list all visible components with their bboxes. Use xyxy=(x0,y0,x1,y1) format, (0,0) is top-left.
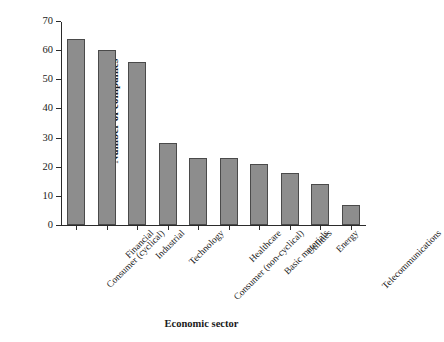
x-tick-label: Telecommunications xyxy=(380,228,444,292)
x-tick xyxy=(290,226,291,230)
y-tick-label: 40 xyxy=(43,101,54,114)
x-tick-label: Consumer (cyclical) xyxy=(105,228,167,290)
bar xyxy=(189,158,207,225)
bar xyxy=(220,158,238,225)
x-tick-label: Technology xyxy=(187,228,226,267)
x-tick xyxy=(168,226,169,230)
x-tick xyxy=(76,226,77,230)
x-axis-title: Economic sector xyxy=(0,318,403,329)
y-tick: 20 xyxy=(56,167,61,168)
y-tick: 0 xyxy=(56,225,61,226)
x-tick-label: Financial xyxy=(123,228,156,261)
y-tick-label: 0 xyxy=(48,218,53,231)
y-tick-label: 50 xyxy=(43,72,54,85)
bar xyxy=(342,205,360,225)
y-tick-label: 10 xyxy=(43,189,54,202)
x-tick xyxy=(137,226,138,230)
x-tick-label: Healthcare xyxy=(247,228,284,265)
bar xyxy=(250,164,268,225)
x-tick-label: Energy xyxy=(334,228,361,255)
bar xyxy=(98,50,116,225)
x-tick xyxy=(320,226,321,230)
bar xyxy=(159,143,177,225)
y-tick: 40 xyxy=(56,108,61,109)
x-tick-label: Industrial xyxy=(154,228,188,262)
plot-area: 010203040506070 xyxy=(61,22,366,226)
bar xyxy=(67,39,85,226)
y-axis-line xyxy=(61,22,62,226)
bar xyxy=(311,184,329,225)
y-tick: 70 xyxy=(56,21,61,22)
y-tick: 10 xyxy=(56,196,61,197)
x-tick xyxy=(259,226,260,230)
x-tick xyxy=(198,226,199,230)
y-tick: 50 xyxy=(56,79,61,80)
x-tick xyxy=(229,226,230,230)
y-tick-label: 30 xyxy=(43,131,54,144)
y-tick-label: 20 xyxy=(43,160,54,173)
x-tick-label: Utilities xyxy=(305,228,334,257)
bar xyxy=(128,62,146,225)
y-tick-label: 60 xyxy=(43,43,54,56)
y-tick-label: 70 xyxy=(43,14,54,27)
x-tick xyxy=(351,226,352,230)
x-tick xyxy=(107,226,108,230)
x-tick-label: Consumer (non-cyclical) xyxy=(232,228,307,303)
x-tick-label: Basic materials xyxy=(282,228,331,277)
x-axis-tick-labels: Consumer (cyclical)FinancialIndustrialTe… xyxy=(61,228,403,324)
y-tick: 30 xyxy=(56,138,61,139)
y-tick: 60 xyxy=(56,50,61,51)
bar xyxy=(281,173,299,225)
